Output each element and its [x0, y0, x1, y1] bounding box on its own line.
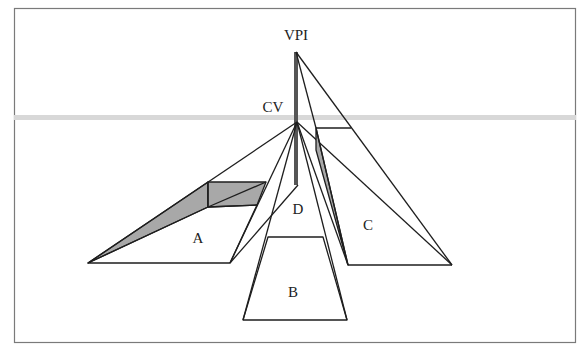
vertical-measure-bar [294, 52, 298, 185]
object-b [243, 237, 347, 320]
object-c-edge [316, 128, 348, 265]
label-b: B [288, 284, 298, 300]
perspective-diagram: VPI CV D A B C [0, 0, 582, 354]
label-c: C [363, 217, 373, 233]
cv-line-c-left [297, 122, 348, 265]
label-d: D [293, 201, 304, 217]
label-vpi: VPI [284, 27, 308, 43]
label-cv: CV [263, 99, 284, 115]
label-a: A [193, 230, 204, 246]
